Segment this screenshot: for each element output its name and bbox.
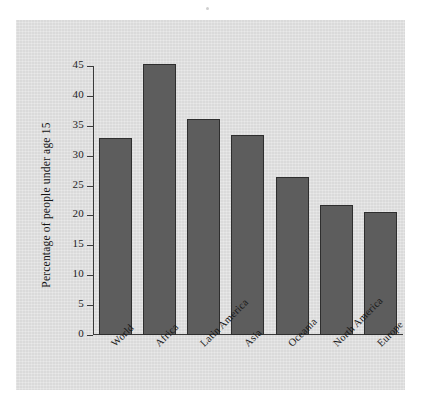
y-tick-label: 35 bbox=[73, 118, 84, 130]
y-tick-label: 10 bbox=[73, 267, 84, 279]
y-tick-label: 0 bbox=[78, 327, 84, 339]
bar[interactable] bbox=[143, 64, 176, 335]
y-tick-label: 45 bbox=[73, 58, 84, 70]
y-tick-mark bbox=[87, 335, 93, 336]
bar[interactable] bbox=[320, 205, 353, 335]
bar-slot bbox=[137, 66, 181, 335]
bar-series bbox=[93, 66, 403, 335]
plot-area: 051015202530354045 WorldAfricaLatin Amer… bbox=[93, 66, 403, 335]
figure: Percentage of people under age 15 051015… bbox=[0, 0, 424, 404]
bar-slot bbox=[182, 66, 226, 335]
bar[interactable] bbox=[187, 119, 220, 335]
y-tick-label: 15 bbox=[73, 237, 84, 249]
y-tick-label: 40 bbox=[73, 88, 84, 100]
y-tick-label: 30 bbox=[73, 148, 84, 160]
y-tick-label: 5 bbox=[78, 297, 84, 309]
y-tick-label: 20 bbox=[73, 207, 84, 219]
page-speck bbox=[206, 7, 209, 10]
bar[interactable] bbox=[99, 138, 132, 335]
chart-panel: Percentage of people under age 15 051015… bbox=[16, 20, 405, 390]
bar-slot bbox=[93, 66, 137, 335]
bar-slot bbox=[270, 66, 314, 335]
bar-slot bbox=[226, 66, 270, 335]
bar-slot bbox=[359, 66, 403, 335]
bar-slot bbox=[314, 66, 358, 335]
bar[interactable] bbox=[276, 177, 309, 335]
y-tick-label: 25 bbox=[73, 178, 84, 190]
y-axis-title: Percentage of people under age 15 bbox=[40, 122, 52, 287]
